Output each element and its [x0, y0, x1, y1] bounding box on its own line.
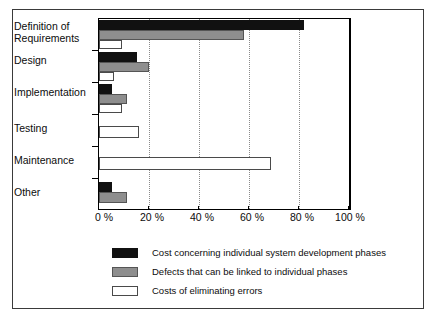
bar-group-other [99, 179, 349, 209]
bar-group-maintenance [99, 147, 349, 179]
legend-label-cost: Cost concerning individual system develo… [152, 247, 386, 258]
x-axis-tick-20 [148, 206, 149, 210]
bar-testing-elimination [99, 126, 139, 138]
x-axis-label-0: 0 % [95, 211, 113, 223]
x-axis-tick-40 [198, 206, 199, 210]
bar-design-defects [99, 62, 149, 72]
legend-item-cost: Cost concerning individual system develo… [112, 243, 412, 262]
bar-implementation-elimination [99, 104, 122, 113]
bar-implementation-defects [99, 94, 127, 104]
bar-maintenance-elimination [99, 157, 271, 170]
bar-other-defects [99, 192, 127, 203]
bar-definition-of-requirements-elimination [99, 40, 122, 49]
x-axis-label-60: 60 % [240, 211, 264, 223]
x-axis-label-80: 80 % [290, 211, 314, 223]
chart-legend: Cost concerning individual system develo… [112, 243, 412, 300]
legend-swatch-black-icon [112, 248, 138, 258]
bar-definition-of-requirements-cost [99, 20, 304, 30]
plot-area [98, 18, 351, 210]
legend-item-elimination: Costs of eliminating errors [112, 281, 412, 300]
legend-item-defects: Defects that can be linked to individual… [112, 262, 412, 281]
x-axis-labels: 0 % 20 % 40 % 60 % 80 % 100 % [98, 211, 350, 227]
legend-swatch-gray-icon [112, 267, 138, 277]
y-axis-label-implementation: Implementation [14, 86, 98, 98]
legend-label-elimination: Costs of eliminating errors [152, 285, 262, 296]
x-axis-tick-100 [348, 206, 349, 210]
bar-implementation-cost [99, 84, 112, 94]
y-axis-label-design: Design [14, 54, 98, 66]
x-axis-label-40: 40 % [190, 211, 214, 223]
legend-swatch-white-icon [112, 286, 138, 296]
bar-group-implementation [99, 83, 349, 115]
bar-group-testing [99, 115, 349, 147]
bar-design-elimination [99, 72, 114, 81]
x-axis-tick-60 [248, 206, 249, 210]
chart-figure: Definition of Requirements Design Implem… [0, 0, 438, 323]
bar-design-cost [99, 52, 137, 62]
category-tick-4 [92, 146, 98, 147]
bar-other-cost [99, 182, 112, 192]
bar-group-design [99, 51, 349, 83]
plot-wrapper [98, 18, 350, 210]
y-axis-label-definition-of-requirements: Definition of Requirements [14, 20, 98, 44]
x-axis-label-100: 100 % [335, 211, 365, 223]
x-axis-tick-0 [98, 206, 99, 210]
category-tick-1 [92, 50, 98, 51]
bar-group-definition-of-requirements [99, 19, 349, 51]
y-axis-labels: Definition of Requirements Design Implem… [14, 18, 98, 208]
y-axis-label-maintenance: Maintenance [14, 154, 98, 166]
category-tick-3 [92, 114, 98, 115]
legend-label-defects: Defects that can be linked to individual… [152, 266, 347, 277]
y-axis-label-other: Other [14, 186, 98, 198]
y-axis-label-testing: Testing [14, 122, 98, 134]
bar-definition-of-requirements-defects [99, 30, 244, 40]
x-axis-label-20: 20 % [140, 211, 164, 223]
category-tick-2 [92, 82, 98, 83]
x-axis-tick-80 [298, 206, 299, 210]
category-tick-5 [92, 178, 98, 179]
